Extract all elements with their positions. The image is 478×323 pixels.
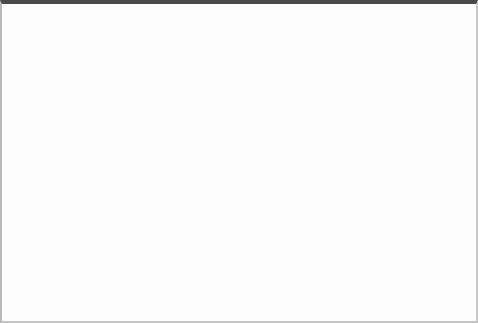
node-label-H[interactable]: H	[231, 211, 239, 223]
node-label-G[interactable]: G	[241, 94, 250, 106]
node-label-J[interactable]: J	[285, 214, 291, 226]
tree-region-diagram: A B C D E G H I J K L M	[0, 0, 478, 323]
node-label-E[interactable]: E	[207, 180, 215, 192]
figure-root: A B C D E G H I J K L M	[0, 0, 478, 323]
node-label-C[interactable]: C	[174, 211, 182, 223]
middle-circle-region	[204, 142, 320, 258]
region-layer	[62, 24, 402, 288]
node-label-K[interactable]: K	[298, 140, 306, 152]
node-label-L[interactable]: L	[317, 211, 324, 223]
node-label-M[interactable]: M	[347, 175, 357, 187]
node-label-D[interactable]: D	[179, 140, 187, 152]
node-label-I[interactable]: I	[260, 174, 263, 186]
node-label-A[interactable]: A	[90, 211, 98, 223]
node-label-B[interactable]: B	[133, 176, 141, 188]
